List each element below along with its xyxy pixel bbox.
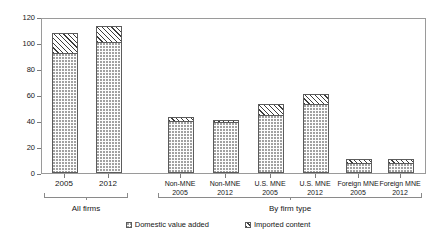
legend-label-domestic-value-added: Domestic value added <box>135 221 209 229</box>
bar-segment-domestic-all-firms-2012 <box>96 42 122 173</box>
x-tick-mark <box>225 174 226 178</box>
x-tick-mark <box>180 174 181 178</box>
bar-segment-imported-foreign-mne-2005 <box>346 159 372 164</box>
bar-non-mne-2005 <box>168 117 194 173</box>
bar-segment-imported-foreign-mne-2012 <box>388 159 414 164</box>
bar-us-mne-2012 <box>303 94 329 173</box>
group-bracket-all-firms <box>44 193 128 198</box>
bar-segment-domestic-us-mne-2005 <box>258 115 284 174</box>
bar-all-firms-2005 <box>52 33 78 173</box>
bar-segment-domestic-non-mne-2012 <box>213 122 239 173</box>
bar-foreign-mne-2005 <box>346 159 372 173</box>
bar-segment-domestic-us-mne-2012 <box>303 104 329 173</box>
x-tick-mark <box>64 174 65 178</box>
group-bracket-nub <box>86 197 87 200</box>
y-tick-label: 0 <box>6 170 35 178</box>
group-bracket-by-firm-type <box>158 193 422 198</box>
bar-segment-imported-all-firms-2005 <box>52 33 78 55</box>
plot-area <box>41 18 426 174</box>
y-tick-label: 100 <box>6 40 35 48</box>
y-tick-label: 120 <box>6 14 35 22</box>
y-tick-label: 20 <box>6 144 35 152</box>
legend-item-domestic-value-added: Domestic value added <box>126 221 209 229</box>
bar-us-mne-2005 <box>258 104 284 173</box>
legend-swatch-domestic-value-added <box>126 222 132 228</box>
x-category-label-all-firms-2012: 2012 <box>78 180 138 189</box>
bar-non-mne-2012 <box>213 120 239 173</box>
bar-segment-domestic-foreign-mne-2012 <box>388 163 414 173</box>
bar-segment-imported-non-mne-2012 <box>213 120 239 124</box>
bar-segment-imported-us-mne-2005 <box>258 104 284 115</box>
bar-all-firms-2012 <box>96 26 122 173</box>
bar-segment-imported-non-mne-2005 <box>168 117 194 122</box>
y-tick-mark <box>37 174 41 175</box>
bar-segment-domestic-non-mne-2005 <box>168 121 194 173</box>
x-tick-mark <box>108 174 109 178</box>
bar-foreign-mne-2012 <box>388 159 414 173</box>
legend-label-imported-content: Imported content <box>254 221 310 229</box>
group-label-by-firm-type: By firm type <box>158 204 422 213</box>
y-tick-label: 80 <box>6 66 35 74</box>
legend-swatch-imported-content <box>245 222 251 228</box>
bar-chart: 120100806040200 20052012Non-MNE2005Non-M… <box>0 0 436 238</box>
x-tick-mark <box>358 174 359 178</box>
x-category-line1: 2012 <box>78 180 138 189</box>
x-tick-mark <box>400 174 401 178</box>
bar-segment-domestic-foreign-mne-2005 <box>346 163 372 173</box>
group-bracket-nub <box>290 197 291 200</box>
x-tick-mark <box>315 174 316 178</box>
legend: Domestic value addedImported content <box>0 221 436 229</box>
legend-item-imported-content: Imported content <box>245 221 310 229</box>
group-label-all-firms: All firms <box>44 204 128 213</box>
y-tick-label: 60 <box>6 92 35 100</box>
y-tick-label: 40 <box>6 118 35 126</box>
bar-segment-domestic-all-firms-2005 <box>52 53 78 173</box>
x-tick-mark <box>270 174 271 178</box>
bar-segment-imported-all-firms-2012 <box>96 26 122 43</box>
x-category-line1: Foreign MNE <box>370 180 430 189</box>
bar-segment-imported-us-mne-2012 <box>303 94 329 105</box>
